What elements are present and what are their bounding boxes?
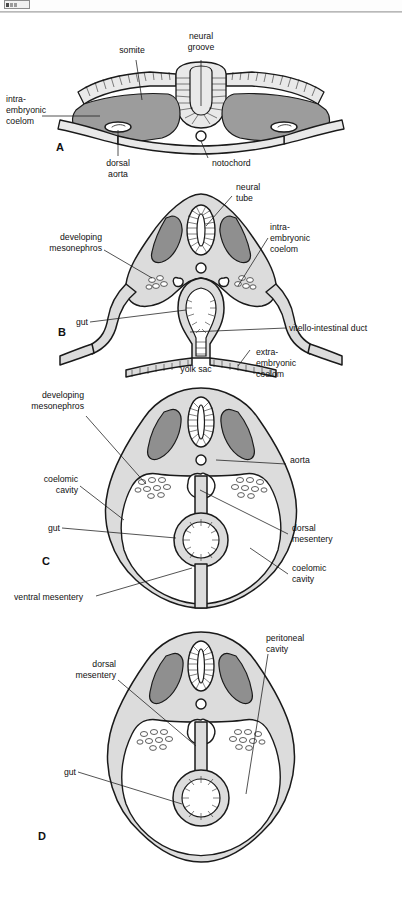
- notochord-shape: [196, 699, 206, 709]
- label-gut: gut: [48, 523, 61, 533]
- label-coelomic-cavity-right-line2: cavity: [292, 574, 315, 584]
- label-intraembryonic-coelom-line1: intra-: [270, 222, 290, 232]
- label-intraembryonic-coelom-line2: embryonic: [270, 233, 311, 243]
- toolbar-dot-icon: [10, 3, 13, 7]
- amnion-fold-right: [266, 284, 310, 354]
- ventral-mesentery-shape: [195, 564, 207, 608]
- label-developing-mesonephros-line1: developing: [42, 390, 84, 400]
- panel-b: neural tube developing mesonephros intra…: [0, 172, 402, 377]
- label-somite: somite: [119, 45, 145, 55]
- label-neural-tube-line2: tube: [236, 193, 253, 203]
- duct-left: [173, 277, 183, 286]
- label-dorsal-mesentery-line2: mesentery: [292, 534, 333, 544]
- panel-c: developing mesonephros aorta coelomic ca…: [0, 372, 402, 617]
- label-coelomic-cavity-left-line1: coelomic: [44, 474, 79, 484]
- neural-tube-lumen: [198, 649, 205, 683]
- toolbar-divider: [0, 12, 402, 13]
- panel-d: dorsal mesentery peritoneal cavity gut D: [0, 612, 402, 892]
- label-aorta: aorta: [290, 455, 310, 465]
- label-developing-mesonephros-line2: mesonephros: [31, 401, 84, 411]
- notochord-shape: [196, 455, 206, 465]
- label-intraembryonic-coelom-line3: coelom: [6, 116, 34, 126]
- label-intraembryonic-coelom-line3: coelom: [270, 244, 298, 254]
- label-extraembryonic-coelom-line2: embryonic: [256, 358, 297, 368]
- label-vitello-intestinal-duct: vitello-intestinal duct: [289, 323, 368, 333]
- dorsal-mesentery-shape: [195, 722, 207, 772]
- label-developing-mesonephros-line2: mesonephros: [49, 243, 102, 253]
- label-developing-mesonephros-line1: developing: [60, 232, 102, 242]
- toolbar-icon-chip[interactable]: [4, 0, 30, 9]
- label-intraembryonic-coelom-line2: embryonic: [6, 105, 47, 115]
- neural-tube-lumen: [197, 214, 205, 246]
- label-neural-tube-line1: neural: [236, 182, 260, 192]
- label-intraembryonic-coelom-line1: intra-: [6, 94, 26, 104]
- panel-letter-b: B: [58, 326, 66, 338]
- notochord-shape: [196, 263, 206, 273]
- label-coelomic-cavity-left-line2: cavity: [56, 485, 79, 495]
- duct-right: [219, 277, 229, 286]
- label-ventral-mesentery: ventral mesentery: [14, 592, 84, 602]
- label-peritoneal-cavity-line1: peritoneal: [266, 633, 304, 643]
- toolbar-dot-icon: [6, 3, 9, 7]
- toolbar-dot-icon: [14, 3, 17, 7]
- label-neural-groove-line2: groove: [188, 42, 215, 52]
- label-notochord: notochord: [212, 158, 251, 168]
- label-gut: gut: [76, 317, 89, 327]
- label-dorsal-mesentery-line1: dorsal: [92, 659, 116, 669]
- label-peritoneal-cavity-line2: cavity: [266, 644, 289, 654]
- label-extraembryonic-coelom-line1: extra-: [256, 347, 278, 357]
- panel-letter-d: D: [38, 830, 46, 842]
- notochord-shape: [196, 131, 206, 141]
- label-dorsal-mesentery-line1: dorsal: [292, 523, 316, 533]
- panel-letter-a: A: [56, 141, 64, 153]
- label-dorsal-aorta-line1: dorsal: [106, 158, 130, 168]
- panel-a: somite neural groove intra- embryonic co…: [0, 14, 402, 174]
- coelom-slit-right: [271, 122, 297, 132]
- panel-letter-c: C: [42, 555, 50, 567]
- figure-canvas: somite neural groove intra- embryonic co…: [0, 0, 402, 917]
- toolbar-artifact: [0, 0, 402, 12]
- label-gut: gut: [64, 767, 77, 777]
- label-coelomic-cavity-right-line1: coelomic: [292, 563, 327, 573]
- label-dorsal-mesentery-line2: mesentery: [75, 670, 116, 680]
- neural-tube-lumen: [198, 405, 205, 439]
- label-neural-groove-line1: neural: [189, 31, 213, 41]
